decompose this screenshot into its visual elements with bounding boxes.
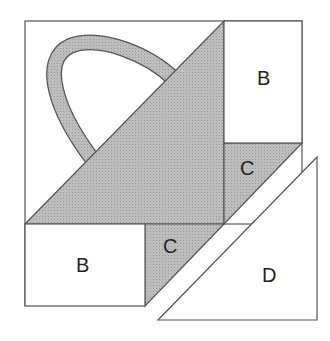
label-d: D (262, 264, 276, 286)
label-c-left: C (163, 235, 177, 257)
label-b-top: B (257, 67, 270, 89)
label-c-right: C (240, 157, 254, 179)
quilt-block-diagram: B B C C D (0, 0, 330, 341)
label-b-bottom: B (76, 254, 89, 276)
